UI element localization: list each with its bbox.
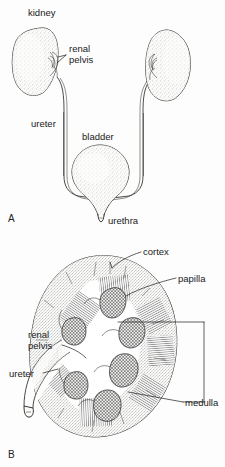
label-renal-b: renal xyxy=(28,329,49,340)
label-kidney-a: kidney xyxy=(28,7,56,18)
label-renal-a: renal xyxy=(69,43,90,54)
label-bladder-a: bladder xyxy=(82,131,114,142)
label-pelvis-a: pelvis xyxy=(69,54,94,65)
label-ureter-b: ureter xyxy=(9,368,34,379)
panel-label-a: A xyxy=(8,213,15,224)
label-pelvis-b: pelvis xyxy=(28,340,53,351)
label-ureter-a: ureter xyxy=(31,118,56,129)
label-papilla-b: papilla xyxy=(178,273,206,284)
panel-label-b: B xyxy=(8,449,15,460)
label-medulla-b: medulla xyxy=(185,397,219,408)
label-urethra-a: urethra xyxy=(108,215,139,226)
label-cortex-b: cortex xyxy=(143,246,169,257)
urinary-system-figure: kidney renal pelvis ureter bladder ureth… xyxy=(0,0,225,467)
